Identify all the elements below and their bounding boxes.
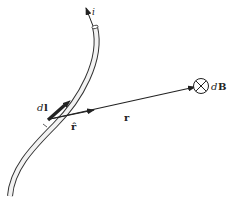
biot-savart-diagram: i d l r r̂ d B (0, 0, 238, 200)
dl-label-d: d (37, 102, 43, 113)
field-point: d B (194, 79, 227, 94)
dB-label-d: d (211, 81, 217, 92)
wire (10, 25, 99, 196)
dB-label-B: B (218, 81, 226, 92)
current-arrow: i (86, 7, 95, 26)
r-hat-label: r̂ (71, 121, 77, 132)
dl-label-l: l (44, 102, 48, 113)
r-label: r (124, 112, 130, 123)
current-label: i (92, 7, 95, 17)
